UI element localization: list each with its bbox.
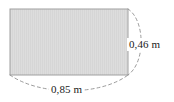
figure-canvas xyxy=(0,0,174,102)
width-dimension-label: 0,85 m xyxy=(49,83,84,96)
rectangle-shape xyxy=(10,9,128,75)
geometry-figure: 0,46 m 0,85 m xyxy=(0,0,174,102)
height-dimension-label: 0,46 m xyxy=(127,38,161,51)
